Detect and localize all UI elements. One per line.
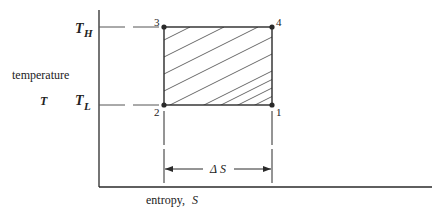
point-3-dot	[161, 24, 166, 29]
point-4-label: 4	[276, 16, 282, 28]
y-axis-label: temperature	[12, 68, 69, 82]
point-1-label: 1	[276, 106, 282, 118]
point-2-label: 2	[154, 106, 160, 118]
ts-diagram: 1 2 3 4 Δ S T H T L temperature T entrop…	[0, 0, 440, 215]
hatched-area	[164, 27, 428, 117]
point-2-dot	[161, 102, 166, 107]
x-axis-symbol: S	[192, 193, 198, 207]
delta-s-label: Δ S	[209, 162, 226, 176]
point-3-label: 3	[154, 16, 160, 28]
axes	[99, 10, 432, 187]
x-axis-label: entropy,	[146, 193, 185, 207]
delta-s-dimension: Δ S	[164, 111, 272, 183]
th-label: T H	[75, 21, 93, 39]
level-guides	[99, 27, 164, 105]
tl-label: T L	[75, 93, 91, 112]
point-1-dot	[269, 102, 274, 107]
y-axis-symbol: T	[40, 94, 48, 108]
th-subscript: H	[83, 27, 93, 39]
tl-subscript: L	[83, 100, 91, 112]
point-4-dot	[269, 24, 274, 29]
